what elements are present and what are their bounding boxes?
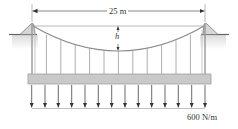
sag-label: h (115, 32, 119, 41)
distributed-load (32, 85, 205, 108)
span-label: 25 m (107, 7, 128, 16)
left-anchor-block (20, 23, 35, 34)
left-ground-shade (12, 35, 38, 49)
left-support (9, 23, 38, 74)
suspension-bridge-diagram: 25 m h 600 N/m (0, 0, 238, 129)
bridge-deck (28, 74, 211, 84)
right-support (200, 23, 229, 74)
diagram-canvas (0, 0, 238, 129)
right-ground-shade (200, 35, 226, 49)
load-intensity-label: 600 N/m (187, 113, 217, 122)
